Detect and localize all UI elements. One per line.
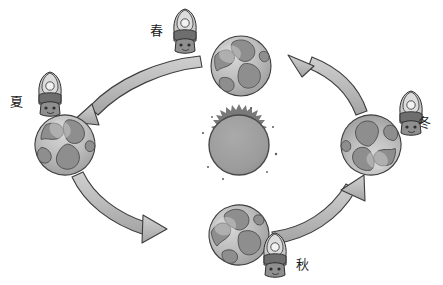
- season-label-summer: 夏: [10, 95, 23, 108]
- season-label-spring: 春: [150, 24, 163, 37]
- arrow-summer-to-autumn: [72, 172, 167, 243]
- season-label-winter: 冬: [418, 116, 431, 129]
- figure-autumn: [264, 233, 286, 277]
- sun-disc: [209, 115, 269, 175]
- sun: [202, 104, 277, 180]
- earth-spring: [211, 36, 271, 96]
- arrow-winter-to-spring: [288, 55, 367, 115]
- seasons-diagram: 春 夏 秋 冬: [0, 0, 443, 285]
- arrow-spring-to-summer: [72, 56, 202, 125]
- figure-summer: [39, 72, 61, 116]
- figure-spring: [174, 9, 196, 53]
- season-label-autumn: 秋: [296, 258, 309, 271]
- arrow-autumn-to-winter: [272, 175, 365, 244]
- earth-winter: [333, 107, 410, 184]
- diagram-canvas: [0, 0, 443, 285]
